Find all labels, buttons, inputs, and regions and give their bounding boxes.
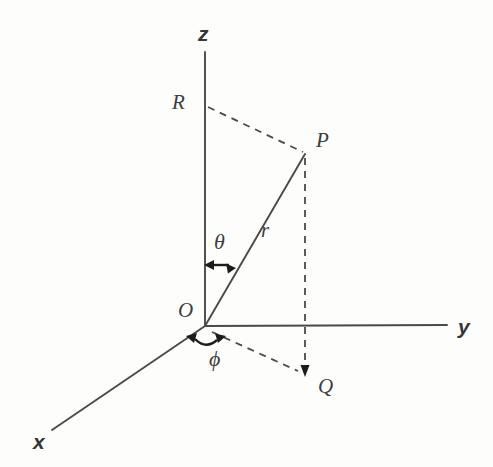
- point-label-r: R: [172, 92, 185, 113]
- angle-label-theta: θ: [214, 231, 225, 253]
- dashed-segment-oq: [212, 332, 298, 371]
- theta-arrowhead-right: [226, 264, 236, 274]
- y-axis-line: [205, 325, 447, 326]
- axis-label-x: x: [33, 431, 45, 452]
- angle-label-phi: ϕ: [209, 348, 220, 370]
- spherical-coordinates-diagram: z y x R P O Q θ ϕ r: [0, 0, 493, 467]
- length-label-r: r: [261, 220, 269, 241]
- x-axis-line: [52, 326, 205, 430]
- axis-label-z: z: [198, 23, 209, 44]
- axis-label-y: y: [458, 316, 470, 337]
- point-label-o: O: [178, 300, 193, 321]
- phi-angle-arrow-line: [195, 339, 217, 345]
- arrowhead-q-down: [301, 365, 310, 377]
- diagram-canvas: [0, 0, 493, 467]
- point-label-q: Q: [318, 376, 333, 397]
- point-label-p: P: [316, 130, 329, 151]
- dashed-segment-rp: [208, 107, 303, 152]
